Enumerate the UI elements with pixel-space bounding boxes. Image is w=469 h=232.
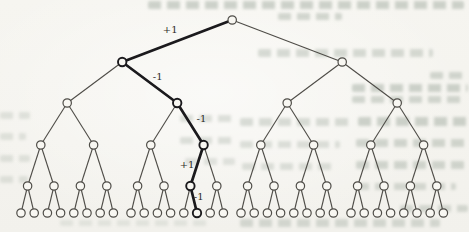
tree-node <box>96 209 104 217</box>
edge-label: -1 <box>194 191 204 202</box>
edge-label: -1 <box>153 71 163 82</box>
tree-node <box>43 209 51 217</box>
tree-node <box>419 141 427 149</box>
tree-node <box>89 141 97 149</box>
tree-node <box>296 182 304 190</box>
tree-node <box>323 182 331 190</box>
tree-node <box>433 182 441 190</box>
tree-node <box>166 209 174 217</box>
tree-node <box>283 99 291 107</box>
tree-node <box>316 209 324 217</box>
tree-edge <box>371 103 397 145</box>
tree-node <box>250 209 258 217</box>
highlighted-tree-node <box>118 58 126 66</box>
tree-node <box>76 182 84 190</box>
tree-edge <box>41 145 54 186</box>
tree-node <box>237 209 245 217</box>
tree-edge <box>232 20 342 62</box>
tree-node <box>360 209 368 217</box>
tree-edge <box>261 145 274 186</box>
tree-node <box>393 99 401 107</box>
tree-node <box>353 182 361 190</box>
tree-edge <box>41 103 67 145</box>
tree-node <box>219 209 227 217</box>
highlighted-edge <box>177 103 203 145</box>
highlighted-tree-node <box>199 141 207 149</box>
tree-node <box>147 141 155 149</box>
tree-node <box>309 141 317 149</box>
tree-node <box>329 209 337 217</box>
tree-edge <box>300 145 313 186</box>
tree-node <box>400 209 408 217</box>
tree-node <box>70 209 78 217</box>
tree-node <box>213 182 221 190</box>
edge-label: +1 <box>180 159 195 170</box>
tree-node <box>133 182 141 190</box>
tree-node <box>23 182 31 190</box>
tree-node <box>257 141 265 149</box>
tree-edge <box>287 103 313 145</box>
highlighted-tree-node <box>193 209 201 217</box>
tree-node <box>56 209 64 217</box>
tree-node <box>180 209 188 217</box>
tree-node <box>303 209 311 217</box>
tree-node <box>386 209 394 217</box>
tree-node <box>380 182 388 190</box>
tree-node <box>290 209 298 217</box>
tree-edge <box>28 145 41 186</box>
highlighted-edge <box>122 62 177 103</box>
tree-edge <box>358 145 371 186</box>
tree-edge <box>80 145 93 186</box>
tree-edge <box>67 103 93 145</box>
tree-node <box>30 209 38 217</box>
tree-node <box>347 209 355 217</box>
tree-node <box>103 182 111 190</box>
tree-node <box>228 16 236 24</box>
tree-edge <box>397 103 423 145</box>
tree-node <box>426 209 434 217</box>
tree-node <box>160 182 168 190</box>
tree-edge <box>287 62 342 103</box>
edge-label: -1 <box>197 113 207 124</box>
tree-node <box>270 182 278 190</box>
tree-node <box>367 141 375 149</box>
tree-edge <box>67 62 122 103</box>
tree-node <box>140 209 148 217</box>
tree-edge <box>94 145 107 186</box>
edge-label: +1 <box>163 24 178 35</box>
tree-node <box>373 209 381 217</box>
tree-node <box>206 209 214 217</box>
tree-node <box>63 99 71 107</box>
tree-node <box>406 182 414 190</box>
tree-node <box>109 209 117 217</box>
tree-edge <box>261 103 287 145</box>
highlighted-tree-node <box>173 99 181 107</box>
tree-node <box>338 58 346 66</box>
scanned-page-background: +1-1-1+1-1 <box>0 0 469 232</box>
tree-edge <box>342 62 397 103</box>
tree-node <box>50 182 58 190</box>
tree-node <box>17 209 25 217</box>
tree-node <box>413 209 421 217</box>
tree-node <box>83 209 91 217</box>
highlighted-tree-node <box>186 182 194 190</box>
tree-node <box>263 209 271 217</box>
tree-edge <box>151 145 164 186</box>
tree-edge <box>204 145 217 186</box>
tree-edge <box>410 145 423 186</box>
tree-node <box>276 209 284 217</box>
tree-edge <box>371 145 384 186</box>
tree-node <box>243 182 251 190</box>
tree-edge <box>138 145 151 186</box>
tree-edge <box>151 103 177 145</box>
tree-node <box>439 209 447 217</box>
tree-node <box>153 209 161 217</box>
tree-node <box>37 141 45 149</box>
tree-edge <box>314 145 327 186</box>
binary-tree-figure: +1-1-1+1-1 <box>0 0 469 232</box>
tree-node <box>127 209 135 217</box>
tree-edge <box>248 145 261 186</box>
tree-edge <box>424 145 437 186</box>
